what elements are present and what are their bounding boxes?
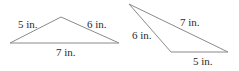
triangle-2-side-b <box>129 4 171 52</box>
triangle-2-label-c: 5 in. <box>193 55 213 67</box>
triangle-1-label-a: 5 in. <box>18 18 38 30</box>
triangles-figure: 5 in. 6 in. 7 in. 7 in. 6 in. 5 in. <box>0 0 239 71</box>
triangle-1: 5 in. 6 in. 7 in. <box>10 17 119 58</box>
triangle-2: 7 in. 6 in. 5 in. <box>129 4 228 67</box>
triangle-2-label-a: 7 in. <box>180 16 200 28</box>
triangle-2-label-b: 6 in. <box>132 29 152 41</box>
triangle-1-label-c: 7 in. <box>56 46 76 58</box>
triangle-1-label-b: 6 in. <box>87 18 107 30</box>
triangle-2-side-a <box>129 4 228 52</box>
